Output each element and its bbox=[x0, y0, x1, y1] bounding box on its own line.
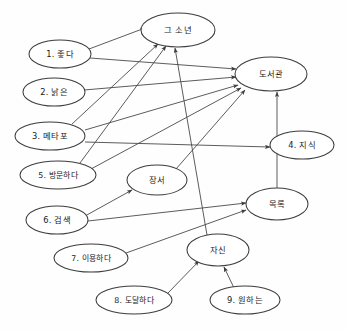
node-self[interactable]: 자신 bbox=[187, 234, 249, 266]
node-label-n4: 4. 지식 bbox=[288, 140, 316, 150]
edge-n3-to-n4 bbox=[85, 142, 270, 147]
concept-graph-canvas: 그 소년1. 좋다도서관2. 낡은3. 메타포4. 지식5. 방문하다장서목록6… bbox=[0, 0, 347, 331]
edge-n9-to-self bbox=[224, 267, 234, 288]
edge-self-to-boy bbox=[175, 48, 207, 235]
edge-n8-to-self bbox=[168, 261, 199, 293]
node-label-n1: 1. 좋다 bbox=[46, 49, 74, 59]
edge-books-to-library bbox=[176, 90, 245, 169]
node-library[interactable]: 도서관 bbox=[235, 57, 307, 91]
node-n6[interactable]: 6. 검색 bbox=[26, 206, 88, 234]
node-books[interactable]: 장서 bbox=[127, 165, 187, 195]
edge-n2-to-library bbox=[84, 77, 236, 90]
edge-n1-to-library bbox=[90, 58, 236, 69]
node-n5[interactable]: 5. 방문하다 bbox=[20, 161, 96, 189]
node-label-books: 장서 bbox=[149, 175, 165, 185]
node-label-n6: 6. 검색 bbox=[43, 215, 71, 225]
node-n4[interactable]: 4. 지식 bbox=[270, 131, 334, 159]
node-label-boy: 그 소년 bbox=[164, 25, 191, 35]
node-n9[interactable]: 9. 원하는 bbox=[210, 286, 280, 314]
graph-svg: 그 소년1. 좋다도서관2. 낡은3. 메타포4. 지식5. 방문하다장서목록6… bbox=[0, 0, 347, 331]
node-n3[interactable]: 3. 메타포 bbox=[15, 122, 85, 150]
node-n7[interactable]: 7. 이용하다 bbox=[54, 244, 128, 272]
node-layer: 그 소년1. 좋다도서관2. 낡은3. 메타포4. 지식5. 방문하다장서목록6… bbox=[15, 13, 334, 314]
node-catalog[interactable]: 목록 bbox=[246, 188, 308, 220]
edge-n6-to-books bbox=[85, 190, 132, 216]
node-label-n7: 7. 이용하다 bbox=[71, 253, 111, 263]
node-boy[interactable]: 그 소년 bbox=[141, 13, 215, 47]
node-n8[interactable]: 8. 도달하다 bbox=[96, 286, 172, 314]
node-n2[interactable]: 2. 낡은 bbox=[23, 78, 85, 106]
node-n1[interactable]: 1. 좋다 bbox=[29, 40, 91, 68]
node-label-n8: 8. 도달하다 bbox=[114, 295, 154, 305]
node-label-catalog: 목록 bbox=[269, 199, 285, 209]
node-label-n5: 5. 방문하다 bbox=[38, 170, 78, 180]
node-label-n2: 2. 낡은 bbox=[40, 87, 68, 97]
edge-n1-to-boy bbox=[89, 28, 145, 49]
node-label-n3: 3. 메타포 bbox=[32, 131, 68, 141]
edge-n3-to-library bbox=[85, 85, 238, 130]
node-label-n9: 9. 원하는 bbox=[227, 295, 263, 305]
edge-n5-to-library bbox=[91, 88, 241, 169]
node-label-self: 자신 bbox=[210, 245, 226, 255]
node-label-library: 도서관 bbox=[259, 69, 284, 79]
